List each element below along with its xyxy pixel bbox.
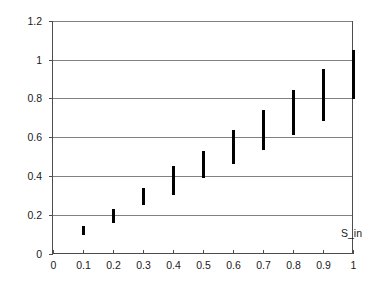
- x-tick-label: 0.8: [279, 260, 309, 271]
- gridlines: [53, 22, 353, 216]
- data-range-bars: [84, 50, 354, 235]
- plot-area: [0, 0, 377, 283]
- x-tick-label: 0.1: [69, 260, 99, 271]
- x-tick-label: 0.9: [309, 260, 339, 271]
- y-tick-label: 0: [8, 249, 42, 260]
- y-tick-label: 1.2: [8, 16, 42, 27]
- x-tick-label: 0.5: [189, 260, 219, 271]
- x-tick-label: 0.6: [219, 260, 249, 271]
- x-tick-label: 0.7: [249, 260, 279, 271]
- x-tick-label: 0.2: [99, 260, 129, 271]
- y-tick-label: 0.8: [8, 93, 42, 104]
- x-tick-label: 0: [39, 260, 69, 271]
- y-tick-label: 0.6: [8, 132, 42, 143]
- chart-container: Power (mW) 00.20.40.60.811.2 00.10.20.30…: [0, 0, 377, 283]
- y-tick-label: 0.2: [8, 210, 42, 221]
- y-tick-label: 0.4: [8, 171, 42, 182]
- series-annotation-s-in: S_in: [341, 228, 362, 239]
- x-tick-label: 0.3: [129, 260, 159, 271]
- y-tick-label: 1: [8, 55, 42, 66]
- x-tick-label: 1: [339, 260, 369, 271]
- x-tick-label: 0.4: [159, 260, 189, 271]
